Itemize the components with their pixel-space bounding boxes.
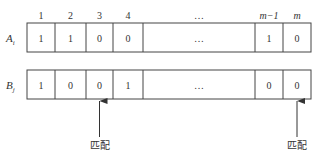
match-label: 匹配 bbox=[287, 140, 307, 151]
cell-value: 1 bbox=[267, 33, 272, 44]
bit-match-diagram: 1234…m−1m Ai1100…10Bj1001…00 匹配匹配 bbox=[0, 0, 327, 167]
row-a: Ai1100…10 bbox=[5, 23, 311, 52]
row-b: Bj1001…00 bbox=[6, 70, 311, 99]
column-header: … bbox=[194, 10, 204, 21]
cell-value: 0 bbox=[97, 80, 102, 91]
cell-value: 1 bbox=[39, 80, 44, 91]
row-label: Ai bbox=[5, 32, 15, 47]
array-rows: Ai1100…10Bj1001…00 bbox=[5, 23, 311, 99]
cell-value: 1 bbox=[39, 33, 44, 44]
cell-value: 0 bbox=[126, 33, 131, 44]
column-header: m−1 bbox=[260, 10, 279, 21]
cell-value: 0 bbox=[295, 80, 300, 91]
cell-value: … bbox=[194, 33, 204, 44]
column-header: 4 bbox=[126, 10, 131, 21]
cell-value: 0 bbox=[295, 33, 300, 44]
column-header: 2 bbox=[68, 10, 73, 21]
match-annotations: 匹配匹配 bbox=[90, 101, 308, 151]
column-header: 3 bbox=[97, 10, 102, 21]
row-label: Bj bbox=[6, 79, 15, 94]
cell-value: 1 bbox=[68, 33, 73, 44]
match-annotation: 匹配 bbox=[90, 101, 110, 151]
cell-value: 1 bbox=[126, 80, 131, 91]
cell-value: 0 bbox=[68, 80, 73, 91]
cell-value: 0 bbox=[267, 80, 272, 91]
column-headers: 1234…m−1m bbox=[39, 10, 301, 21]
match-annotation: 匹配 bbox=[287, 101, 307, 151]
column-header: 1 bbox=[39, 10, 44, 21]
column-header: m bbox=[293, 10, 300, 21]
cell-value: … bbox=[194, 80, 204, 91]
cell-value: 0 bbox=[97, 33, 102, 44]
match-label: 匹配 bbox=[90, 140, 110, 151]
